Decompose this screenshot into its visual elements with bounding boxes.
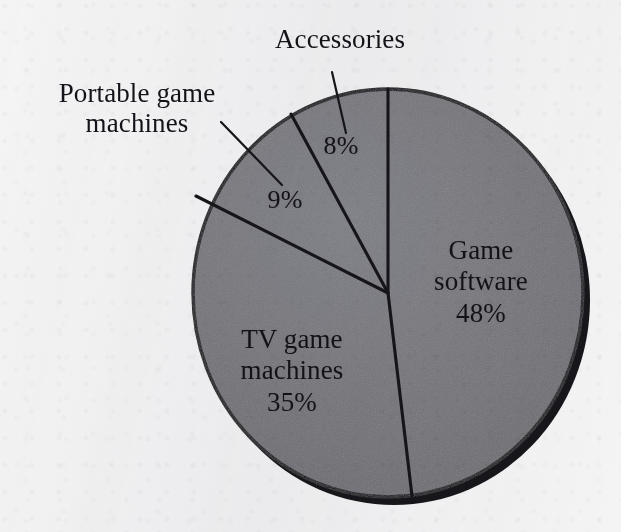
callout-label-portable-game-machines: Portable game machines — [8, 78, 266, 138]
pie-chart-figure: Accessories Portable game machines Game … — [0, 0, 621, 532]
slice-label-game-software: Game software 48% — [398, 235, 564, 329]
slice-label-accessories-percent: 8% — [306, 131, 376, 161]
slice-label-portable-percent: 9% — [248, 185, 322, 215]
slice-label-tv-game-machines: TV game machines 35% — [196, 324, 388, 418]
callout-label-accessories: Accessories — [228, 24, 452, 54]
